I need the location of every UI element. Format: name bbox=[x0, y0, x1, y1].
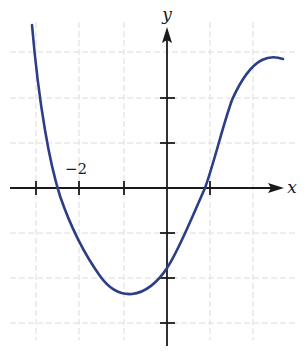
grid bbox=[10, 22, 295, 340]
tick-label-minus-two: −2 bbox=[65, 160, 87, 178]
y-axis-label: y bbox=[161, 4, 172, 24]
function-graph: y x −2 bbox=[0, 0, 308, 356]
x-axis bbox=[10, 181, 276, 195]
x-axis-label: x bbox=[287, 177, 297, 197]
y-axis bbox=[160, 36, 175, 346]
